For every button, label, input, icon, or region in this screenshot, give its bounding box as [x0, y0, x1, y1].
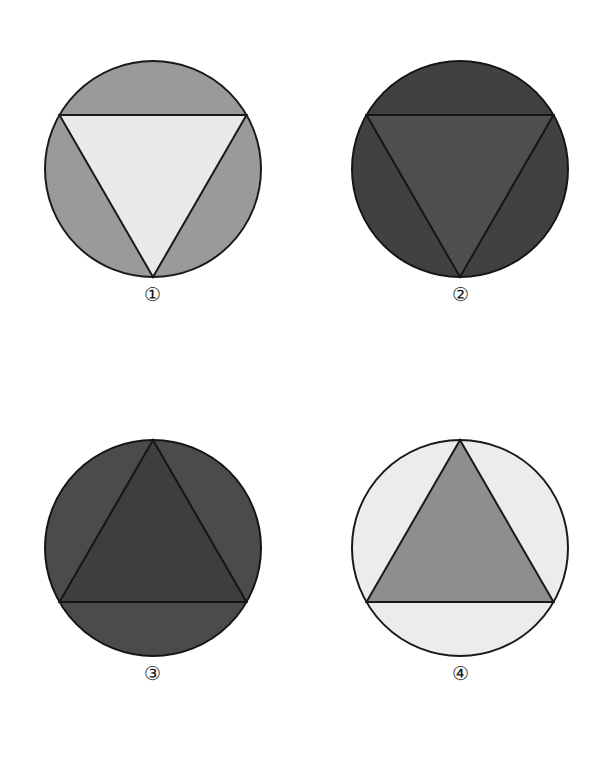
figure-4: ④	[306, 385, 611, 769]
figure-3-graphic	[42, 437, 264, 659]
figure-2: ②	[306, 0, 611, 385]
figure-4-label: ④	[452, 664, 469, 683]
figure-2-graphic	[349, 58, 571, 280]
figure-grid: ① ② ③ ④	[0, 0, 611, 769]
figure-4-graphic	[349, 437, 571, 659]
figure-2-label: ②	[452, 285, 469, 304]
figure-1-label: ①	[144, 285, 161, 304]
figure-3: ③	[0, 385, 306, 769]
figure-1-graphic	[42, 58, 264, 280]
figure-1: ①	[0, 0, 306, 385]
figure-3-label: ③	[144, 664, 161, 683]
